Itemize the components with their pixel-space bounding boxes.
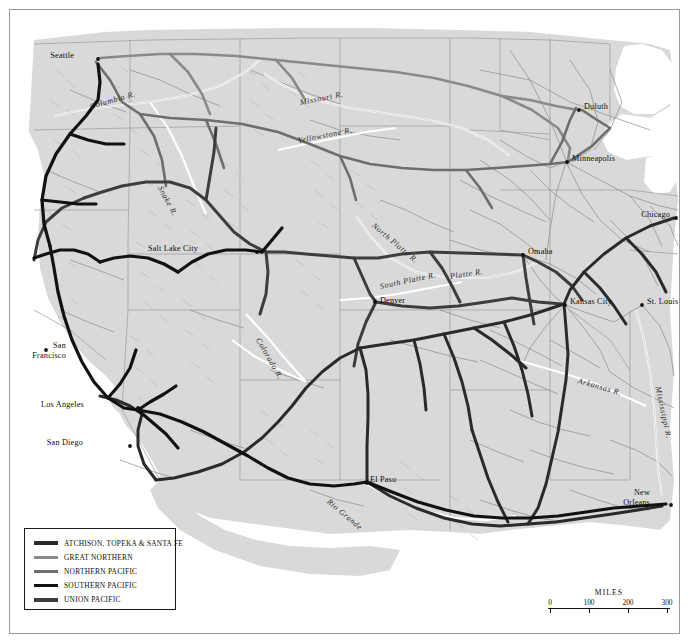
- scale-rule: [548, 608, 670, 616]
- city-label-kansas-city: Kansas City: [570, 297, 612, 306]
- scale-title: MILES: [548, 588, 670, 597]
- legend-item-northern-pacific: NORTHERN PACIFIC: [34, 564, 175, 578]
- city-label-duluth: Duluth: [584, 102, 608, 111]
- legend-item-union-pacific: UNION PACIFIC: [34, 593, 175, 607]
- scale-tick-0: 0: [548, 598, 552, 607]
- railroad-legend: ATCHISON, TOPEKA & SANTA FE GREAT NORTHE…: [24, 528, 176, 610]
- scale-tick-labels: 0 100 200 300: [548, 598, 670, 608]
- legend-item-southern-pacific: SOUTHERN PACIFIC: [34, 579, 175, 593]
- scale-tick-100: 100: [583, 598, 594, 607]
- scale-tick-200: 200: [622, 598, 633, 607]
- scale-mark-100: [589, 609, 590, 613]
- scale-mark-300: [667, 609, 668, 613]
- legend-swatch-northern-pacific: [34, 570, 58, 573]
- city-label-san-francisco: SanFrancisco: [10, 341, 66, 360]
- city-label-chicago: Chicago: [608, 210, 670, 219]
- city-label-los-angeles: Los Angeles: [28, 400, 84, 409]
- city-label-omaha: Omaha: [528, 247, 553, 256]
- san-francisco-line2: Francisco: [32, 351, 66, 360]
- map-page: Seattle Salt Lake City SanFrancisco Los …: [0, 0, 689, 643]
- scale-bar: MILES 0 100 200 300: [548, 588, 670, 616]
- scale-tick-300: 300: [661, 598, 672, 607]
- city-label-salt-lake-city: Salt Lake City: [130, 244, 198, 253]
- scale-mark-0: [550, 609, 551, 613]
- san-francisco-line1: San: [53, 341, 66, 350]
- city-label-st-louis: St. Louis: [647, 297, 678, 306]
- city-label-san-diego: San Diego: [32, 438, 83, 447]
- city-label-denver: Denver: [380, 296, 405, 305]
- legend-label-union-pacific: UNION PACIFIC: [64, 595, 121, 604]
- new-orleans-line2: Orleans: [623, 498, 650, 507]
- legend-item-santa-fe: ATCHISON, TOPEKA & SANTA FE: [34, 536, 175, 550]
- city-label-new-orleans: NewOrleans: [608, 488, 650, 507]
- city-label-minneapolis: Minneapolis: [572, 154, 615, 163]
- legend-label-santa-fe: ATCHISON, TOPEKA & SANTA FE: [64, 539, 183, 548]
- legend-label-northern-pacific: NORTHERN PACIFIC: [64, 567, 137, 576]
- city-label-el-paso: El Paso: [370, 475, 396, 484]
- city-label-seattle: Seattle: [44, 51, 74, 60]
- legend-swatch-santa-fe: [34, 541, 58, 544]
- legend-swatch-great-northern: [34, 556, 58, 559]
- legend-swatch-southern-pacific: [34, 584, 58, 587]
- legend-label-great-northern: GREAT NORTHERN: [64, 553, 133, 562]
- legend-swatch-union-pacific: [34, 598, 58, 601]
- new-orleans-line1: New: [634, 488, 650, 497]
- legend-label-southern-pacific: SOUTHERN PACIFIC: [64, 581, 137, 590]
- scale-mark-200: [628, 609, 629, 613]
- legend-item-great-northern: GREAT NORTHERN: [34, 550, 175, 564]
